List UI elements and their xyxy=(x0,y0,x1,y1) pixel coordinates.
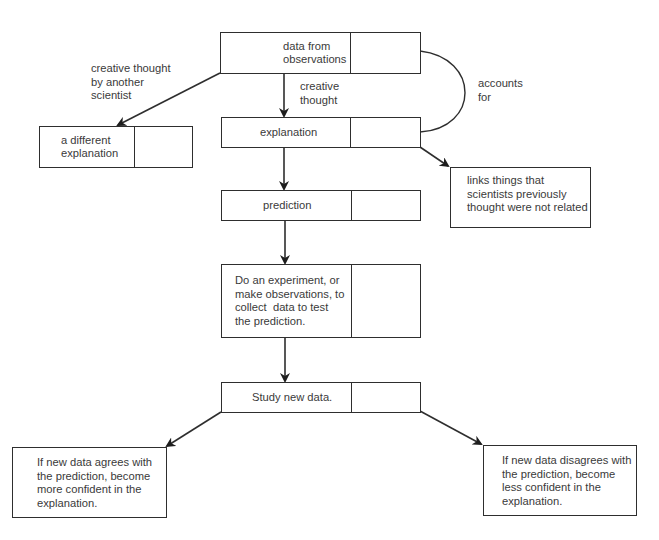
node-blank-cell xyxy=(350,118,420,147)
node-label: If new data agrees with the prediction, … xyxy=(37,456,152,510)
edge-label-creative-thought-other: creative thought by another scientist xyxy=(91,62,171,103)
edge-label-creative-thought: creative thought xyxy=(300,80,339,107)
node-experiment: Do an experiment, or make observations, … xyxy=(221,264,421,338)
node-prediction: prediction xyxy=(221,190,421,221)
arrow-study-to-agrees xyxy=(167,412,221,446)
node-blank-cell xyxy=(350,33,420,73)
node-blank-cell xyxy=(351,383,420,412)
node-blank-cell xyxy=(134,127,192,167)
node-label: prediction xyxy=(222,191,351,220)
node-label: explanation xyxy=(222,118,350,147)
node-label: Do an experiment, or make observations, … xyxy=(222,265,351,337)
arrow-study-to-disagrees xyxy=(420,411,481,444)
accounts-for-curve xyxy=(420,51,465,132)
node-label: a different explanation xyxy=(40,127,134,167)
arrow-explanation-to-links xyxy=(420,147,448,166)
node-different-explanation: a different explanation xyxy=(39,126,193,168)
node-study-new-data: Study new data. xyxy=(221,382,421,413)
node-blank-cell xyxy=(351,191,420,220)
node-links-things: links things that scientists previously … xyxy=(450,167,591,228)
node-data-from-observations: data from observations xyxy=(220,32,421,74)
node-label: data from observations xyxy=(221,33,350,73)
node-label: links things that scientists previously … xyxy=(467,174,588,215)
node-label: Study new data. xyxy=(222,383,351,412)
node-agrees: If new data agrees with the prediction, … xyxy=(12,447,167,518)
node-explanation: explanation xyxy=(221,117,421,148)
edge-label-accounts-for: accounts for xyxy=(478,77,523,104)
node-disagrees: If new data disagrees with the predictio… xyxy=(483,445,637,516)
node-blank-cell xyxy=(351,265,420,337)
node-label: If new data disagrees with the predictio… xyxy=(502,454,631,508)
